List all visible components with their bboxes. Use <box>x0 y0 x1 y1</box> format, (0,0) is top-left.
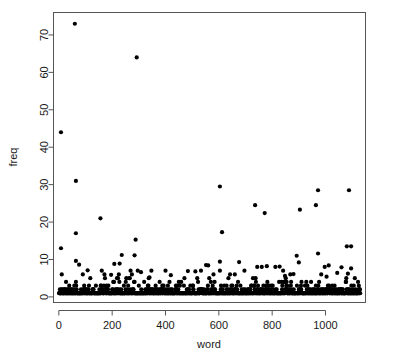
x-tick-label: 400 <box>156 319 174 331</box>
data-point <box>271 284 275 288</box>
data-point <box>73 22 77 26</box>
data-point <box>137 284 141 288</box>
data-point <box>332 284 336 288</box>
y-tick-label: 50 <box>39 104 51 116</box>
data-point <box>357 284 361 288</box>
data-point <box>166 284 170 288</box>
data-point <box>265 280 269 284</box>
data-point <box>187 287 191 291</box>
data-point <box>100 269 104 273</box>
x-tick-label: 800 <box>263 319 281 331</box>
data-point <box>130 272 134 276</box>
data-point <box>297 260 301 264</box>
data-point <box>59 130 63 134</box>
y-tick-label: 70 <box>39 29 51 41</box>
data-point <box>299 287 303 291</box>
data-point <box>228 272 232 276</box>
data-point <box>281 269 285 273</box>
data-point <box>193 269 197 273</box>
data-point <box>149 269 153 273</box>
data-point <box>196 280 200 284</box>
data-point <box>260 265 264 269</box>
data-point <box>134 238 138 242</box>
data-point <box>132 253 136 257</box>
data-point <box>291 272 295 276</box>
data-point <box>278 264 282 268</box>
data-point <box>309 280 313 284</box>
data-point <box>289 284 293 288</box>
data-point <box>128 276 132 280</box>
data-point <box>147 275 151 279</box>
data-point <box>191 284 195 288</box>
data-point <box>64 280 68 284</box>
data-point <box>60 272 64 276</box>
data-point <box>226 276 230 280</box>
data-point <box>248 287 252 291</box>
data-point <box>233 272 237 276</box>
data-point <box>207 276 211 280</box>
data-point <box>186 269 190 273</box>
data-point <box>213 287 217 291</box>
data-point <box>289 280 293 284</box>
data-point <box>304 280 308 284</box>
data-point <box>103 276 107 280</box>
data-point <box>339 265 343 269</box>
data-point <box>295 254 299 258</box>
data-point <box>128 269 132 273</box>
data-point <box>236 280 240 284</box>
x-tick-label: 200 <box>103 319 121 331</box>
data-point <box>347 188 351 192</box>
data-point <box>182 284 186 288</box>
data-point <box>74 280 78 284</box>
data-point <box>77 263 81 267</box>
chart-canvas: 010203040506070 02004006008001000 freq w… <box>0 0 393 362</box>
data-point <box>220 230 224 234</box>
data-point <box>122 284 126 288</box>
data-point <box>358 291 362 295</box>
y-tick-label: 0 <box>39 294 51 300</box>
data-point <box>344 280 348 284</box>
data-point <box>237 260 241 264</box>
data-point <box>299 280 303 284</box>
data-point <box>120 253 124 257</box>
data-point <box>255 265 259 269</box>
data-point <box>118 261 122 265</box>
data-point <box>280 284 284 288</box>
data-point <box>81 272 85 276</box>
data-point <box>179 280 183 284</box>
data-point <box>139 270 143 274</box>
y-tick-label: 60 <box>39 66 51 78</box>
data-point <box>212 280 216 284</box>
data-point <box>230 284 234 288</box>
data-point <box>352 284 356 288</box>
data-point <box>211 272 215 276</box>
data-point <box>74 179 78 183</box>
data-point <box>162 284 166 288</box>
data-point <box>91 287 95 291</box>
data-point <box>106 287 110 291</box>
data-point <box>284 280 288 284</box>
data-point <box>191 287 195 291</box>
y-tick-label: 10 <box>39 253 51 265</box>
data-point <box>106 284 110 288</box>
data-point <box>316 188 320 192</box>
data-point <box>242 269 246 273</box>
data-point <box>254 280 258 284</box>
data-point <box>211 284 215 288</box>
data-point <box>353 276 357 280</box>
data-point <box>275 287 279 291</box>
data-point <box>344 276 348 280</box>
data-point <box>285 284 289 288</box>
x-tick-label: 1000 <box>313 319 337 331</box>
data-point <box>218 269 222 273</box>
data-point <box>346 272 350 276</box>
data-point <box>305 284 309 288</box>
data-point <box>292 287 296 291</box>
data-point <box>218 260 222 264</box>
data-point <box>252 284 256 288</box>
data-point <box>75 287 79 291</box>
data-point <box>132 280 136 284</box>
data-point <box>335 271 339 275</box>
data-point <box>117 272 121 276</box>
chart-background <box>0 0 393 362</box>
